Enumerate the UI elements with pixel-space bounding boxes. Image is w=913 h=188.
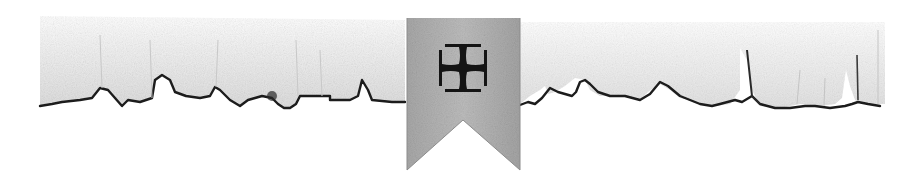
- divider-graphic: [0, 0, 913, 188]
- parchment-strip-right: [520, 22, 885, 108]
- parchment-strip-left: [40, 16, 405, 108]
- decorative-divider: [0, 0, 913, 188]
- heraldic-banner: [407, 18, 520, 170]
